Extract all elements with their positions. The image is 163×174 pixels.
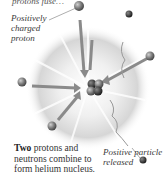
caption: Two protons and neutrons combine to form…	[14, 143, 98, 174]
released-particle-label: Positive particle released	[103, 147, 163, 167]
arrow-left	[32, 86, 76, 88]
proton-particle-left	[18, 78, 27, 87]
proton-particle-bottom-left	[48, 122, 57, 131]
proton-particle-right	[146, 52, 155, 61]
proton-label: Positively charged proton	[11, 13, 53, 43]
proton-leader-line	[49, 8, 76, 20]
arrow-upper	[90, 40, 92, 70]
proton-particle-top	[74, 1, 84, 11]
caption-lead: Two	[14, 143, 31, 153]
particle-top-right	[126, 11, 133, 18]
